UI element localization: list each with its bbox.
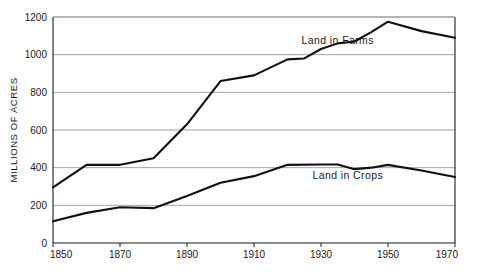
x-tick-label: 1870 (109, 249, 132, 260)
x-tick-label: 1970 (436, 249, 459, 260)
y-tick-labels-group: 020040060080010001200 (25, 12, 48, 249)
x-tick-label: 1910 (243, 249, 266, 260)
x-tick-label: 1890 (176, 249, 199, 260)
series-label-0: Land in Farms (302, 34, 374, 46)
x-tick-label: 1930 (310, 249, 333, 260)
y-tick-label: 1000 (25, 49, 48, 60)
x-tick-label: 1850 (50, 249, 73, 260)
x-tick-labels-group: 1850187018901910193019501970 (50, 249, 458, 260)
chart-container: 020040060080010001200 185018701890191019… (0, 0, 478, 278)
series-line-1 (53, 164, 455, 221)
y-tick-label: 800 (30, 87, 47, 98)
series-labels-group: Land in FarmsLand in Crops (302, 34, 383, 181)
y-tick-label: 400 (30, 162, 47, 173)
y-tick-label: 200 (30, 200, 47, 211)
x-tick-label: 1950 (377, 249, 400, 260)
series-group (53, 22, 455, 222)
line-chart: 020040060080010001200 185018701890191019… (0, 0, 478, 278)
tick-marks-group (53, 243, 455, 247)
y-tick-label: 600 (30, 125, 47, 136)
series-label-1: Land in Crops (313, 169, 384, 181)
y-axis-title: MILLIONS OF ACRES (8, 77, 19, 182)
y-tick-label: 0 (41, 238, 47, 249)
y-tick-label: 1200 (25, 12, 48, 23)
series-line-0 (53, 22, 455, 188)
